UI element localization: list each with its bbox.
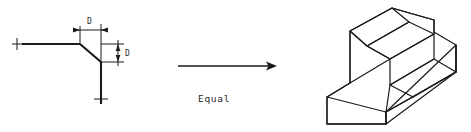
horizontal-dimension-label: D xyxy=(87,17,92,26)
iso-lower-front-face xyxy=(327,97,386,124)
arrowhead-down xyxy=(116,55,121,62)
equal-label: Equal xyxy=(198,93,230,104)
iso-upper-front-face xyxy=(390,34,434,85)
iso-edge-top-back xyxy=(392,8,434,20)
technical-drawing-canvas: D D Equal xyxy=(0,0,471,132)
iso-edge-tread-right-join xyxy=(413,72,456,97)
object-chamfer-edge xyxy=(80,44,101,62)
arrowhead-up xyxy=(116,44,121,51)
chamfer-2d-view: D D xyxy=(0,0,160,132)
iso-solid-outline xyxy=(327,8,456,124)
arrowhead-left-inward xyxy=(101,28,108,33)
arrowhead-right-inward xyxy=(73,28,80,33)
equality-arrow: Equal xyxy=(160,0,310,132)
iso-lower-right-face xyxy=(386,45,456,124)
object-outline-group xyxy=(22,44,101,104)
iso-edge-left-bottom xyxy=(327,83,350,97)
isometric-3d-view xyxy=(310,0,471,132)
centerline-ticks-group xyxy=(12,38,108,99)
vertical-dimension-label: D xyxy=(125,49,130,58)
iso-left-upper-face xyxy=(350,31,390,83)
